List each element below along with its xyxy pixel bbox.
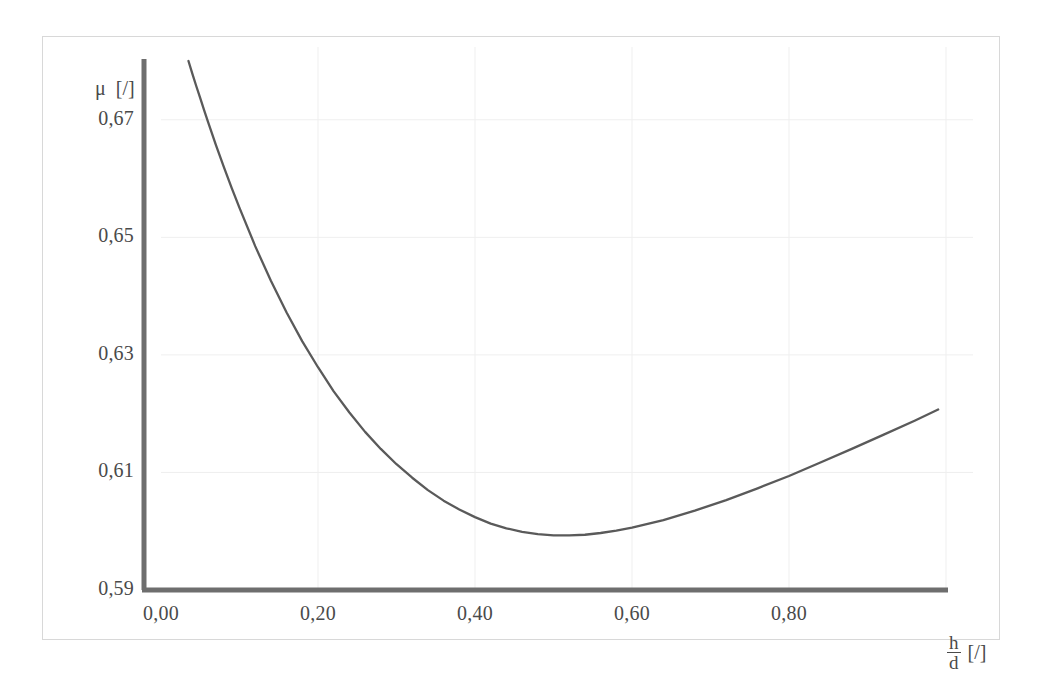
axes [142, 59, 948, 590]
y-tick-label: 0,63 [64, 342, 134, 365]
x-tick-label: 0,60 [592, 602, 672, 625]
y-tick-label: 0,61 [64, 459, 134, 482]
x-axis-numerator: h [947, 633, 961, 652]
gridlines [161, 47, 973, 590]
x-tick-label: 0,20 [278, 602, 358, 625]
x-axis-unit: [/] [968, 641, 987, 664]
y-axis-unit: [/] [116, 77, 135, 99]
x-axis-fraction: h d [947, 633, 961, 673]
chart-canvas [43, 37, 1001, 641]
x-axis-title: h d [/] [947, 633, 986, 673]
y-axis-title: μ[/] [95, 77, 135, 100]
y-tick-label: 0,65 [64, 224, 134, 247]
plot-area: 0,590,610,630,650,67 0,000,200,400,600,8… [43, 37, 999, 639]
x-tick-label: 0,00 [121, 602, 201, 625]
y-axis-symbol: μ [95, 77, 106, 99]
x-axis-denominator: d [947, 652, 961, 672]
y-tick-label: 0,59 [64, 577, 134, 600]
chart-figure: 0,590,610,630,650,67 0,000,200,400,600,8… [42, 36, 1000, 640]
x-tick-label: 0,80 [749, 602, 829, 625]
y-tick-label: 0,67 [64, 107, 134, 130]
data-series-line [188, 61, 938, 535]
x-tick-label: 0,40 [435, 602, 515, 625]
